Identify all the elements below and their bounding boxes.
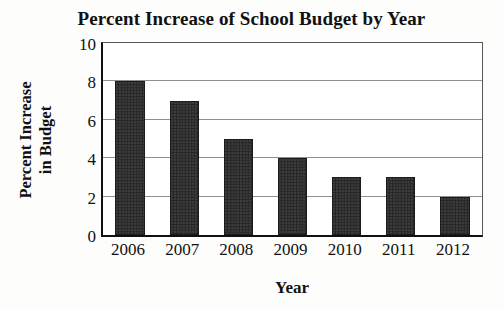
x-tick-label-2011: 2011 xyxy=(372,240,426,260)
y-tick-label-10: 10 xyxy=(62,36,96,53)
y-tick-label-0: 0 xyxy=(62,228,96,245)
x-axis-tick-labels: 2006200720082009201020112012 xyxy=(101,240,483,264)
y-axis-tick-labels: 1086420 xyxy=(60,42,96,237)
x-tick-label-2010: 2010 xyxy=(318,240,372,260)
x-tick-label-2006: 2006 xyxy=(101,240,155,260)
bar-2007[interactable] xyxy=(170,101,199,235)
x-tick-label-2007: 2007 xyxy=(155,240,209,260)
x-tick-label-2012: 2012 xyxy=(426,240,480,260)
bar-2008[interactable] xyxy=(224,139,253,235)
y-tick-label-4: 4 xyxy=(62,151,96,168)
bar-series xyxy=(103,43,482,235)
y-axis-title: Percent Increase in Budget xyxy=(13,42,59,238)
y-axis-title-line-2: in Budget xyxy=(36,81,56,198)
chart-canvas: Percent Increase of School Budget by Yea… xyxy=(0,0,503,310)
x-tick-label-2008: 2008 xyxy=(209,240,263,260)
bar-2006[interactable] xyxy=(115,81,144,235)
plot-area xyxy=(101,42,483,237)
chart-title: Percent Increase of School Budget by Yea… xyxy=(0,8,503,30)
y-tick-label-8: 8 xyxy=(62,74,96,91)
bar-2011[interactable] xyxy=(386,177,415,235)
y-axis-title-line-1: Percent Increase xyxy=(16,81,36,198)
x-axis-title: Year xyxy=(101,278,483,298)
y-axis-title-text: Percent Increase in Budget xyxy=(16,81,56,198)
bar-2010[interactable] xyxy=(332,177,361,235)
bar-2009[interactable] xyxy=(278,158,307,235)
bar-2012[interactable] xyxy=(440,197,469,235)
y-tick-label-6: 6 xyxy=(62,113,96,130)
x-tick-label-2009: 2009 xyxy=(263,240,317,260)
y-tick-label-2: 2 xyxy=(62,190,96,207)
